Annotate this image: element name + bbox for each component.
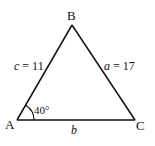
- angle-a-arc: [26, 105, 35, 120]
- side-value-c: = 11: [19, 59, 43, 73]
- side-label-b: b: [71, 123, 77, 137]
- vertex-label-b: B: [67, 8, 76, 23]
- vertex-label-c: C: [136, 118, 145, 133]
- triangle-diagram: A B C c = 11 a = 17 b 40°: [0, 0, 155, 146]
- vertex-label-a: A: [5, 117, 15, 132]
- side-value-a: = 17: [110, 59, 135, 73]
- side-label-a: a = 17: [104, 59, 135, 73]
- angle-label-a: 40°: [34, 104, 49, 116]
- side-label-c: c = 11: [14, 59, 44, 73]
